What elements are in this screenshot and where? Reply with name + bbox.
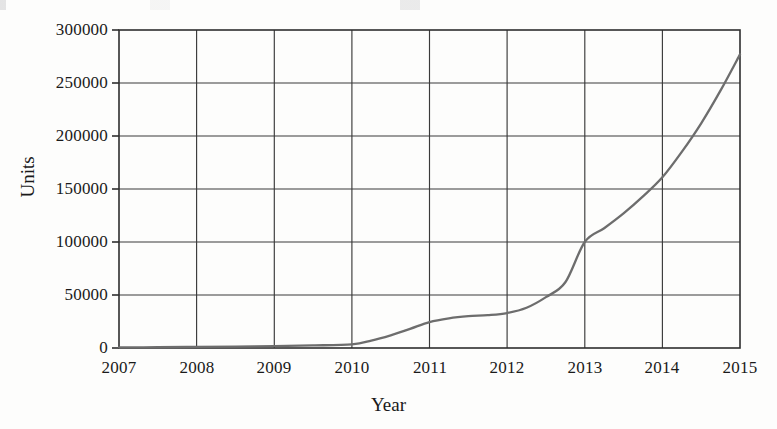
y-tick-label-50000: 50000 [8, 285, 108, 305]
x-tick-label-2007: 2007 [79, 358, 159, 378]
x-tick-label-2010: 2010 [312, 358, 392, 378]
x-tick-label-2012: 2012 [467, 358, 547, 378]
y-tick-label-0: 0 [8, 338, 108, 358]
x-tick-label-2011: 2011 [390, 358, 470, 378]
x-tick-label-2008: 2008 [157, 358, 237, 378]
x-tick-label-2014: 2014 [622, 358, 702, 378]
x-tick-label-2009: 2009 [234, 358, 314, 378]
y-tick-label-300000: 300000 [8, 20, 108, 40]
y-axis-title: Units [17, 137, 39, 217]
y-tick-label-250000: 250000 [8, 73, 108, 93]
y-tick-label-100000: 100000 [8, 232, 108, 252]
x-tick-label-2013: 2013 [545, 358, 625, 378]
x-axis-title: Year [0, 394, 777, 416]
chart-figure: 300000 250000 200000 150000 100000 50000… [0, 0, 777, 429]
x-tick-label-2015: 2015 [700, 358, 777, 378]
y-tick-marks [112, 30, 119, 348]
